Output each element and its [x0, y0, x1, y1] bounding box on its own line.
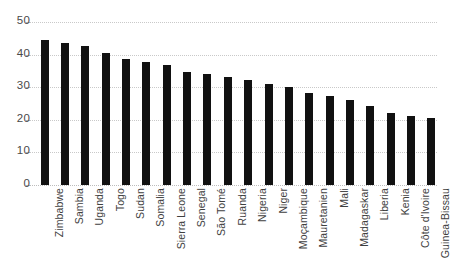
bar — [163, 65, 171, 185]
y-axis-tick-label: 30 — [0, 79, 30, 91]
bar — [61, 43, 69, 185]
bar — [407, 116, 415, 185]
category-label: Zimbabwe — [49, 188, 61, 237]
bar — [183, 72, 191, 185]
category-label: Madagaskar — [354, 188, 366, 247]
category-label: Togo — [110, 188, 122, 211]
bar — [142, 62, 150, 185]
y-axis-tick-label: 50 — [0, 14, 30, 26]
plot-area: 01020304050 — [30, 22, 437, 185]
category-label: São Tomé — [211, 188, 223, 236]
category-label: Nigeria — [252, 188, 264, 222]
gridline — [30, 185, 437, 186]
bars-layer — [30, 22, 437, 185]
y-axis-tick-label: 20 — [0, 112, 30, 124]
category-label: Kenia — [395, 188, 407, 215]
bar — [387, 113, 395, 185]
bar — [285, 87, 293, 185]
category-label: Niger — [273, 188, 285, 214]
category-label: Sambia — [69, 188, 81, 224]
y-axis-tick-label: 40 — [0, 47, 30, 59]
bar — [122, 59, 130, 185]
category-label: Ruanda — [232, 188, 244, 225]
category-label: Uganda — [89, 188, 101, 225]
bar — [305, 93, 313, 185]
category-axis-labels: ZimbabweSambiaUgandaTogoSudanSomaliaSier… — [30, 188, 437, 267]
bar — [326, 96, 334, 185]
bar — [346, 100, 354, 185]
bar — [427, 118, 435, 185]
bar — [224, 77, 232, 185]
category-label: Senegal — [191, 188, 203, 227]
bar — [244, 80, 252, 185]
category-label: Mauretanien — [313, 188, 325, 247]
bar — [102, 53, 110, 185]
category-label: Liberia — [374, 188, 386, 220]
category-label: Moçambique — [293, 188, 305, 249]
y-axis-tick-label: 0 — [0, 177, 30, 189]
bar — [81, 46, 89, 185]
bar — [203, 74, 211, 185]
category-label: Somalia — [150, 188, 162, 227]
category-label: Côte d'Ivoire — [415, 188, 427, 248]
category-label: Sierra Leone — [171, 188, 183, 249]
y-axis-tick-label: 10 — [0, 144, 30, 156]
category-label: Mali — [334, 188, 346, 208]
bar — [265, 84, 273, 185]
category-label: Guinea-Bissau — [435, 188, 447, 258]
category-label: Sudan — [130, 188, 142, 219]
bar — [366, 106, 374, 185]
bar — [41, 40, 49, 185]
